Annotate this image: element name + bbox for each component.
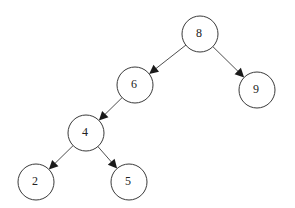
edge-line: [154, 44, 188, 70]
edge-line: [103, 96, 123, 116]
edge-n8-n6: [149, 44, 187, 74]
edge-line: [211, 45, 239, 73]
node-label: 4: [82, 125, 88, 139]
edge-line: [97, 145, 114, 164]
node-label: 6: [131, 77, 137, 91]
tree-node-8: 8: [182, 16, 218, 52]
node-label: 8: [196, 26, 202, 40]
tree-node-9: 9: [239, 72, 275, 108]
node-label: 2: [32, 174, 38, 188]
tree-diagram: 869425: [0, 0, 295, 208]
edge-n8-n9: [211, 45, 244, 77]
arrowhead-icon: [108, 159, 117, 169]
tree-node-6: 6: [117, 67, 153, 103]
edge-line: [53, 144, 74, 165]
edge-n4-n2: [49, 144, 75, 169]
tree-node-2: 2: [18, 164, 54, 200]
tree-node-5: 5: [111, 164, 147, 200]
node-label: 9: [253, 82, 259, 96]
edge-n4-n5: [97, 145, 118, 168]
node-label: 5: [125, 174, 131, 188]
tree-node-4: 4: [68, 115, 104, 151]
nodes-layer: 869425: [18, 16, 275, 200]
edges-layer: [49, 44, 244, 170]
edge-n6-n4: [99, 96, 124, 120]
arrowhead-icon: [149, 65, 159, 74]
